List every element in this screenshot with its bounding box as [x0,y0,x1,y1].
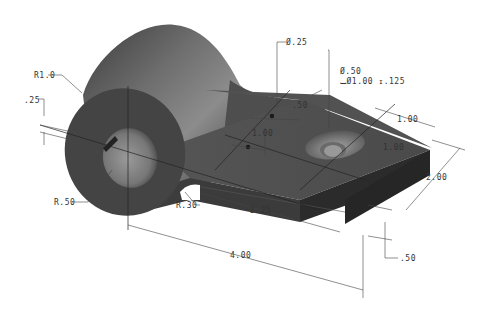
label-hole-to-center: 2.25 [250,206,271,215]
part-drawing: R1.0 .25 R.50 R.30 Ø.25 .50 1.00 Ø.50 ⌴Ø… [0,0,495,315]
label-fillet-radius: R.30 [176,201,197,210]
label-bore-radius: R.50 [54,198,75,207]
label-cbore-spec: ⌴Ø1.00 ↧.125 [340,76,405,86]
label-cbore-from-end: 1.00 [397,115,418,124]
label-small-hole-offset-y: .50 [292,101,308,110]
label-overall-length: 4.00 [230,251,251,260]
label-plate-thickness: .50 [400,254,416,263]
label-boss-radius: R1.0 [34,71,55,80]
label-cbore-from-side: 1.00 [383,143,404,152]
label-slot-width: .25 [24,96,40,105]
label-plate-width: 2.00 [426,173,447,182]
label-small-hole-dia: Ø.25 [286,37,307,47]
label-cbore-hole-dia: Ø.50 [340,66,361,76]
label-small-hole-offset-x: 1.00 [252,129,273,138]
